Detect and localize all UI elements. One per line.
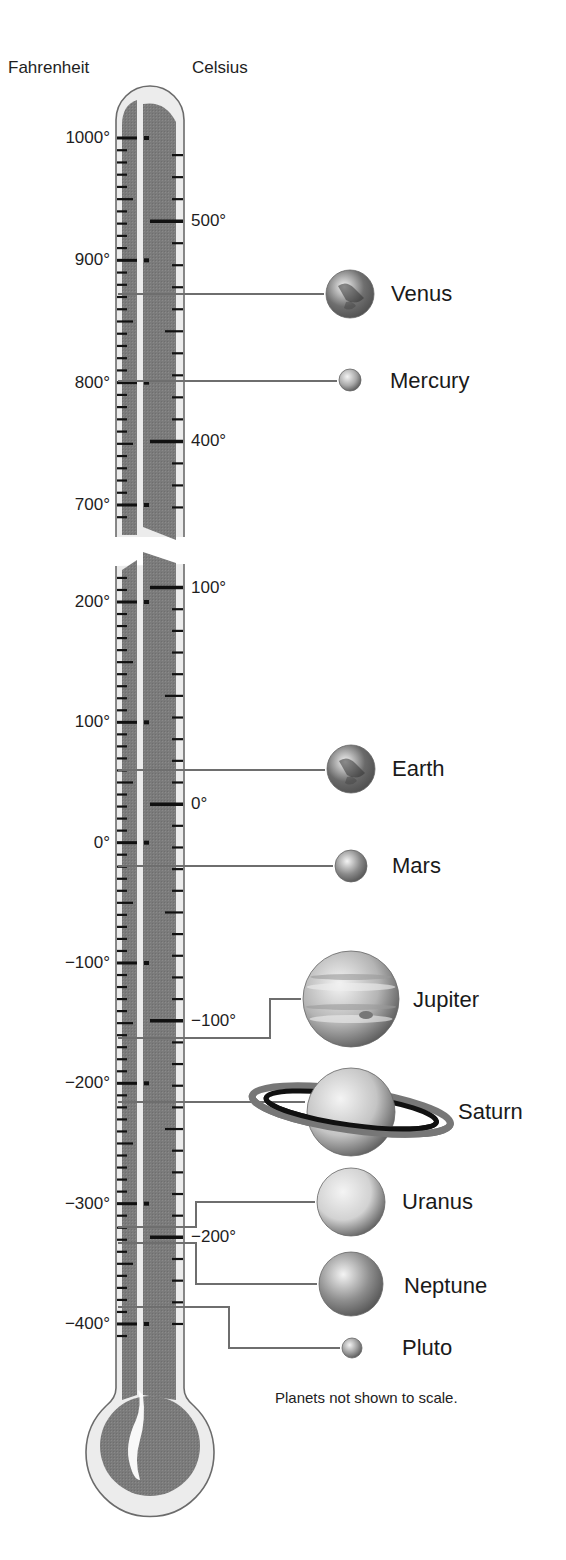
celsius-label: 100° [191,578,226,598]
celsius-label: −100° [191,1011,236,1031]
thermometer-lower-section [86,552,214,1516]
celsius-label: 500° [191,211,226,231]
fahrenheit-label: 0° [10,833,110,853]
celsius-label: 400° [191,431,226,451]
mercury-planet-icon [339,369,361,391]
bulb [100,1396,200,1496]
neptune-planet-icon [319,1252,383,1316]
mars-label: Mars [392,853,441,879]
pluto-label: Pluto [402,1335,452,1361]
saturn-label: Saturn [458,1099,523,1125]
fahrenheit-label: 1000° [10,128,110,148]
neptune-label: Neptune [404,1273,487,1299]
celsius-label: 0° [191,794,207,814]
fahrenheit-label: 800° [10,373,110,393]
pluto-planet-icon [342,1338,362,1358]
uranus-planet-icon [317,1168,385,1236]
saturn-planet-icon [249,1068,453,1156]
fahrenheit-label: −100° [10,953,110,973]
venus-planet-icon [326,270,374,318]
fahrenheit-label: −400° [10,1314,110,1334]
fahrenheit-label: 900° [10,250,110,270]
earth-planet-icon [327,745,375,793]
fahrenheit-label: 700° [10,495,110,515]
earth-label: Earth [392,756,445,782]
mars-planet-icon [335,850,367,882]
thermometer-upper-section [116,86,184,540]
fahrenheit-label: −200° [10,1073,110,1093]
fahrenheit-label: −300° [10,1194,110,1214]
scale-note: Planets not shown to scale. [275,1389,458,1406]
venus-label: Venus [391,281,452,307]
mercury-label: Mercury [390,368,469,394]
uranus-label: Uranus [402,1189,473,1215]
jupiter-label: Jupiter [413,987,479,1013]
fahrenheit-label: 100° [10,712,110,732]
fahrenheit-label: 200° [10,592,110,612]
celsius-label: −200° [191,1227,236,1247]
jupiter-planet-icon [303,951,399,1047]
